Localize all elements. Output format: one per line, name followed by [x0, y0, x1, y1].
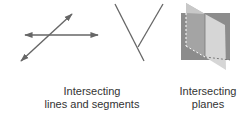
caption-intersecting-planes: Intersecting planes — [168, 85, 248, 111]
intersecting-planes-figure — [181, 3, 230, 70]
segment-left — [115, 4, 144, 61]
caption-line-2: lines and segments — [36, 98, 148, 111]
caption-line-1: Intersecting — [168, 85, 248, 98]
caption-intersecting-lines: Intersecting lines and segments — [36, 85, 148, 111]
diagonal-line — [21, 14, 72, 61]
intersecting-lines-figure — [21, 14, 98, 61]
caption-line-1: Intersecting — [36, 85, 148, 98]
caption-line-2: planes — [168, 98, 248, 111]
intersecting-segments-figure — [115, 4, 163, 61]
segment-right — [138, 4, 163, 47]
front-plane-top — [186, 3, 205, 14]
